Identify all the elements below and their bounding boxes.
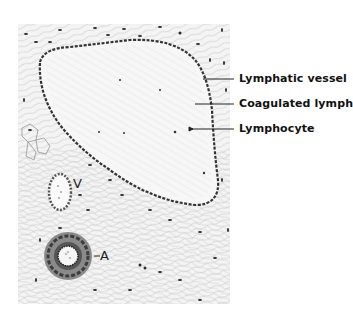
artery-label: A bbox=[100, 248, 109, 263]
callout-coagulated-lymph: Coagulated lymph bbox=[239, 97, 353, 110]
vein bbox=[49, 174, 71, 210]
callout-lymphatic-vessel: Lymphatic vessel bbox=[239, 72, 347, 85]
callout-lymphocyte: Lymphocyte bbox=[239, 122, 315, 135]
vein-label: V bbox=[73, 176, 82, 191]
